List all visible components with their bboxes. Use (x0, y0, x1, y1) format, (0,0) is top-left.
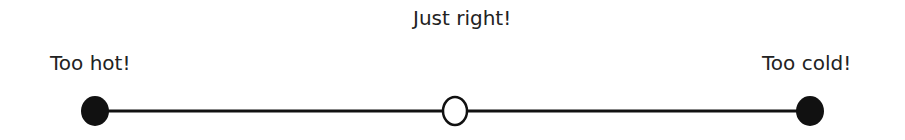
temperature-scale (0, 0, 905, 140)
right-endpoint-dot (796, 96, 824, 126)
center-open-circle (443, 97, 467, 125)
left-endpoint-dot (81, 96, 109, 126)
